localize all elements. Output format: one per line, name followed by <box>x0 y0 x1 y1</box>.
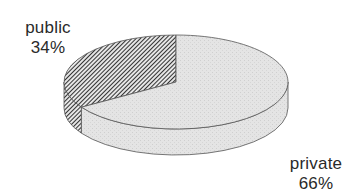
slice-label-private: private 66% <box>276 154 356 193</box>
slice-name-public: public <box>16 18 80 38</box>
slice-name-private: private <box>276 154 356 174</box>
slice-label-public: public 34% <box>16 18 80 58</box>
slice-value-public: 34% <box>16 38 80 58</box>
slice-value-private: 66% <box>276 174 356 193</box>
